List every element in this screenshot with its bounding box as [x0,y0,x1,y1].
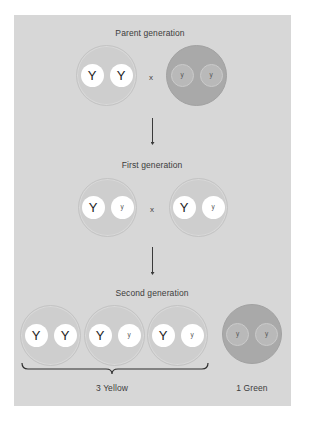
second-gen-organism-2: Y y [84,305,145,366]
curly-brace-icon [20,362,210,376]
cross-symbol: x [149,73,153,82]
allele-dominant: Y [173,196,196,219]
down-arrow-icon [152,118,153,143]
green-count-label: 1 Green [236,383,267,393]
cross-symbol: x [150,205,154,214]
allele-recessive: y [171,64,194,87]
down-arrow-icon [152,247,153,273]
parent-yellow-organism: Y Y [76,45,137,106]
parent-green-organism: y y [166,45,227,106]
allele-recessive: y [118,324,141,347]
allele-dominant: Y [152,324,175,347]
allele-recessive: y [181,324,204,347]
first-gen-organism-2: Y y [169,178,228,237]
first-gen-organism-1: Y y [78,178,137,237]
allele-dominant: Y [110,64,133,87]
allele-recessive: y [255,323,278,346]
second-gen-organism-1: Y Y [20,305,81,366]
second-gen-organism-4: y y [222,304,282,364]
allele-dominant: Y [89,324,112,347]
allele-recessive: y [226,323,249,346]
allele-recessive: y [111,196,134,219]
first-generation-label: First generation [122,160,183,170]
allele-recessive: y [202,196,225,219]
allele-dominant: Y [25,324,48,347]
parent-generation-label: Parent generation [115,28,184,38]
allele-dominant: Y [54,324,77,347]
allele-dominant: Y [81,64,104,87]
allele-recessive: y [200,64,223,87]
allele-dominant: Y [82,196,105,219]
second-gen-organism-3: Y y [147,305,208,366]
second-generation-label: Second generation [115,288,188,298]
yellow-count-label: 3 Yellow [96,383,128,393]
